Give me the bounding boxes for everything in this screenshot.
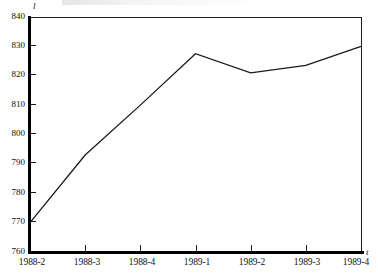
y-tick-label: 810 [12,100,26,109]
x-tick-label: 1988-2 [19,257,45,268]
y-axis-line [28,16,31,254]
x-tick-mark [140,245,141,252]
y-tick-mark [31,162,36,163]
x-tick-label: 1989-4 [343,257,369,268]
scan-artifact [62,0,262,5]
chart-container: 840 830 820 810 800 790 780 770 760 1988… [0,0,378,279]
y-tick-mark [31,104,36,105]
x-tick-mark [85,245,86,252]
x-tick-mark [361,245,362,252]
y-tick-mark [31,133,36,134]
y-tick-mark [31,192,36,193]
y-tick-label: 760 [12,247,26,256]
y-tick-label: 820 [12,70,26,79]
x-tick-label: 1989-3 [294,257,320,268]
y-tick-label: 830 [12,41,26,50]
x-axis-tick-labels: 1988-2 1988-3 1988-4 1989-1 1989-2 1989-… [0,257,378,271]
y-tick-mark [31,74,36,75]
y-tick-mark [31,221,36,222]
x-tick-mark [306,245,307,252]
x-tick-label: 1988-4 [129,257,155,268]
x-tick-mark [196,245,197,252]
y-tick-label: 840 [12,12,26,21]
y-tick-label: 770 [12,217,26,226]
y-tick-label: 780 [12,188,26,197]
y-tick-label: 790 [12,158,26,167]
y-axis-variable-label: l [33,2,36,11]
x-tick-label: 1989-2 [239,257,265,268]
y-axis-tick-labels: 840 830 820 810 800 790 780 770 760 [0,0,27,279]
x-axis-variable-label: t [366,248,369,257]
x-tick-mark [251,245,252,252]
y-tick-label: 800 [12,129,26,138]
x-tick-label: 1988-3 [74,257,100,268]
x-tick-label: 1989-1 [184,257,210,268]
y-tick-mark [31,45,36,46]
plot-area [30,17,362,252]
